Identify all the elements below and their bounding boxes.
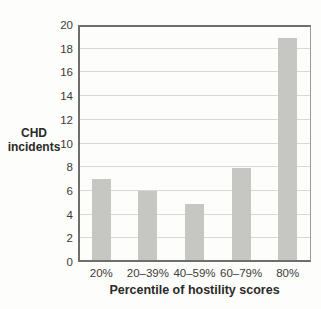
x-tick-label: 60–79% — [218, 266, 265, 280]
bar — [138, 191, 157, 262]
y-tick-label: 18 — [40, 42, 73, 56]
plot-area — [78, 25, 311, 262]
x-tick-label: 20–39% — [125, 266, 172, 280]
bar — [232, 168, 251, 262]
x-tick-label: 40–59% — [171, 266, 218, 280]
x-axis-title: Percentile of hostility scores — [78, 283, 311, 297]
y-axis-tick-labels: 02468101214161820 — [40, 0, 73, 309]
gridline — [78, 166, 311, 167]
chd-hostility-bar-chart: CHD incidents 02468101214161820 20%20–39… — [0, 0, 321, 309]
y-tick-label: 4 — [40, 208, 73, 222]
gridline — [78, 71, 311, 72]
y-tick-label: 8 — [40, 160, 73, 174]
y-tick-label: 20 — [40, 18, 73, 32]
bar — [278, 38, 297, 262]
x-tick-label: 80% — [264, 266, 311, 280]
y-tick-label: 2 — [40, 231, 73, 245]
y-tick-label: 6 — [40, 184, 73, 198]
gridline — [78, 190, 311, 191]
y-tick-label: 12 — [40, 113, 73, 127]
y-tick-label: 0 — [40, 255, 73, 269]
gridline — [78, 95, 311, 96]
y-tick-label: 10 — [40, 137, 73, 151]
bar — [92, 179, 111, 262]
x-tick-label: 20% — [78, 266, 125, 280]
y-tick-label: 16 — [40, 65, 73, 79]
gridline — [78, 48, 311, 49]
y-tick-label: 14 — [40, 89, 73, 103]
gridline — [78, 143, 311, 144]
bar — [185, 204, 204, 262]
gridline — [78, 119, 311, 120]
